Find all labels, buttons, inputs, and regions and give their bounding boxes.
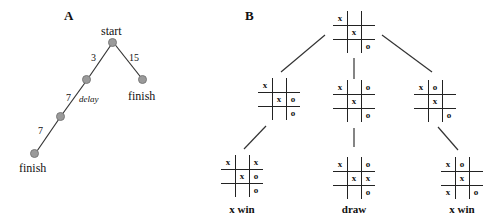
board-right-leaf: x o x x o xyxy=(441,157,483,199)
edge-label-7-lower: 7 xyxy=(38,125,43,136)
cell: o xyxy=(361,80,375,94)
result-left: x win xyxy=(212,203,272,215)
cell: o xyxy=(249,183,263,197)
finish-label-right: finish xyxy=(128,89,155,104)
cell xyxy=(272,106,286,120)
cell xyxy=(361,11,375,25)
cell: x xyxy=(361,171,375,185)
panel-a-label: A xyxy=(64,8,73,24)
cell: x xyxy=(347,171,361,185)
cell xyxy=(442,80,456,94)
cell: o xyxy=(249,169,263,183)
cell xyxy=(221,169,235,183)
cell: o xyxy=(286,92,300,106)
cell: o xyxy=(428,80,442,94)
edge-label-7-upper: 7 xyxy=(66,92,71,103)
cell: o xyxy=(361,108,375,122)
cell xyxy=(469,157,483,171)
cell: o xyxy=(455,157,469,171)
cell: o xyxy=(286,106,300,120)
cell: x xyxy=(249,155,263,169)
finish-label-bottom: finish xyxy=(19,161,46,176)
cell xyxy=(235,183,249,197)
start-node xyxy=(108,38,117,47)
cell xyxy=(469,171,483,185)
cell: x xyxy=(441,185,455,199)
cell xyxy=(333,25,347,39)
cell: o xyxy=(442,108,456,122)
delay-node xyxy=(82,75,91,84)
cell xyxy=(361,94,375,108)
cell: o xyxy=(361,185,375,199)
result-center: draw xyxy=(324,203,384,215)
cell: o xyxy=(361,157,375,171)
cell xyxy=(333,39,347,53)
cell xyxy=(347,39,361,53)
cell xyxy=(333,108,347,122)
cell xyxy=(455,185,469,199)
edge-label-3: 3 xyxy=(91,52,96,63)
cell xyxy=(347,11,361,25)
panel-b-label: B xyxy=(245,8,254,24)
cell xyxy=(258,92,272,106)
cell: x xyxy=(272,92,286,106)
cell xyxy=(442,94,456,108)
cell xyxy=(272,78,286,92)
cell xyxy=(414,94,428,108)
cell xyxy=(333,171,347,185)
cell xyxy=(347,80,361,94)
cell: x xyxy=(333,80,347,94)
board-center-leaf: x o x x o xyxy=(333,157,375,199)
cell: o xyxy=(361,39,375,53)
board-right: x o x o xyxy=(414,80,456,122)
cell: o xyxy=(469,185,483,199)
start-label: start xyxy=(101,24,122,39)
cell: x xyxy=(428,94,442,108)
cell: x xyxy=(333,11,347,25)
cell: x xyxy=(221,155,235,169)
cell: x xyxy=(347,94,361,108)
cell xyxy=(258,106,272,120)
cell xyxy=(347,157,361,171)
finish-node-bottom xyxy=(30,149,39,158)
cell xyxy=(221,183,235,197)
cell xyxy=(235,155,249,169)
cell: x xyxy=(455,171,469,185)
edge-label-15: 15 xyxy=(129,52,139,63)
cell: x xyxy=(333,157,347,171)
cell xyxy=(361,25,375,39)
cell xyxy=(333,94,347,108)
cell xyxy=(414,108,428,122)
intermediate-node xyxy=(56,112,65,121)
cell xyxy=(347,185,361,199)
cell xyxy=(428,108,442,122)
board-root: x x o xyxy=(333,11,375,53)
result-right: x win xyxy=(432,203,492,215)
cell: x xyxy=(347,25,361,39)
cell: x xyxy=(258,78,272,92)
cell xyxy=(441,171,455,185)
finish-node-right xyxy=(138,75,147,84)
board-left-leaf: x x x o o xyxy=(221,155,263,197)
delay-annotation: delay xyxy=(79,94,99,104)
cell xyxy=(333,185,347,199)
board-center: x o x o xyxy=(333,80,375,122)
cell xyxy=(286,78,300,92)
board-left: x x o o xyxy=(258,78,300,120)
cell xyxy=(347,108,361,122)
cell: x xyxy=(235,169,249,183)
cell: x xyxy=(441,157,455,171)
cell: x xyxy=(414,80,428,94)
